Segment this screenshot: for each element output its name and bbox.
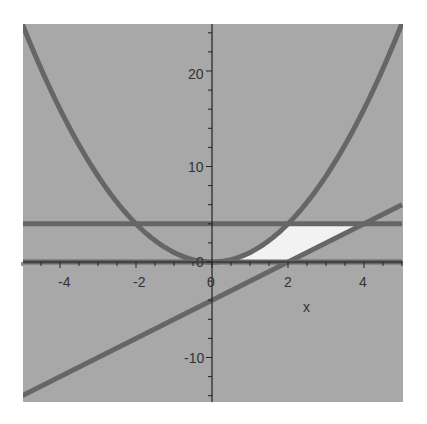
tick-label-y-20: 20 [188, 66, 204, 82]
tick-label-y--10: -10 [184, 350, 204, 366]
tick-label-x--4: -4 [58, 274, 71, 290]
plot-canvas: -4 -2 0 2 4 20 10 0 -10 x [0, 0, 427, 424]
tick-label-x-4: 4 [359, 274, 367, 290]
tick-label-x-2: 2 [284, 274, 292, 290]
tick-label-x--2: -2 [133, 274, 146, 290]
x-axis-label: x [303, 299, 310, 315]
tick-label-y-0: 0 [196, 254, 204, 270]
tick-label-y-10: 10 [188, 159, 204, 175]
tick-label-x-0: 0 [207, 274, 215, 290]
plot-background [23, 24, 403, 402]
